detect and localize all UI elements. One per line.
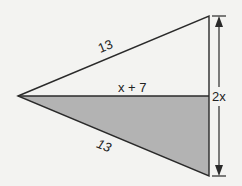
diagram-canvas: 13 13 x + 7 2x bbox=[0, 0, 242, 186]
triangle-diagram: 13 13 x + 7 2x bbox=[0, 0, 242, 186]
label-altitude: x + 7 bbox=[118, 80, 147, 95]
label-lower-side: 13 bbox=[95, 136, 115, 156]
label-upper-side: 13 bbox=[96, 36, 115, 55]
label-base: 2x bbox=[212, 89, 226, 104]
